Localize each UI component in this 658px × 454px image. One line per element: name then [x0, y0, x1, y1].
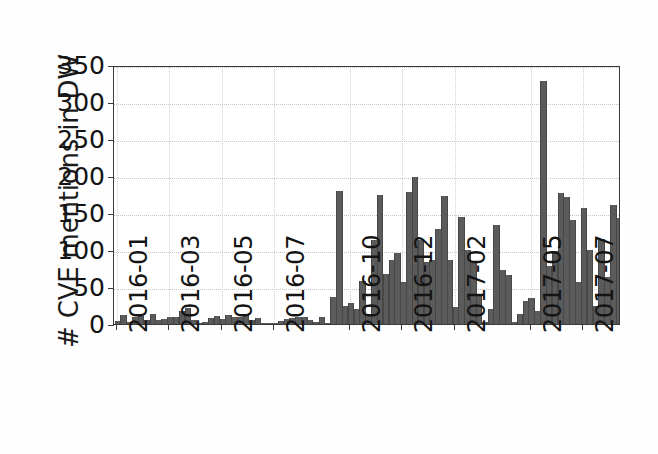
chart-figure: # CVE mentions in DW 0501001502002503003…: [0, 0, 658, 454]
y-tick-label-250: 250: [43, 127, 105, 152]
x-tick-label-2017-07: 2017-07: [591, 235, 619, 333]
x-tick-label-2016-10: 2016-10: [358, 235, 386, 333]
x-tick-label-2016-05: 2016-05: [230, 235, 258, 333]
x-tick-mark-2: [221, 325, 222, 330]
x-tick-label-2016-07: 2016-07: [282, 235, 310, 333]
bar: [336, 191, 343, 324]
x-tick-mark-3: [273, 325, 274, 330]
x-tick-label-2017-05: 2017-05: [539, 235, 567, 333]
x-tick-mark-7: [530, 325, 531, 330]
x-tick-mark-4: [349, 325, 350, 330]
x-tick-label-2017-02: 2017-02: [463, 235, 491, 333]
x-tick-mark-1: [168, 325, 169, 330]
x-tick-label-2016-01: 2016-01: [125, 235, 153, 333]
y-tick-label-350: 350: [43, 53, 105, 78]
x-tick-mark-6: [454, 325, 455, 330]
x-tick-label-2016-12: 2016-12: [410, 235, 438, 333]
x-tick-label-2016-03: 2016-03: [177, 235, 205, 333]
y-tick-label-100: 100: [43, 238, 105, 263]
y-tick-label-0: 0: [43, 312, 105, 337]
bar: [505, 275, 512, 324]
y-tick-label-300: 300: [43, 90, 105, 115]
y-tick-label-200: 200: [43, 164, 105, 189]
x-tick-mark-0: [116, 325, 117, 330]
y-tick-label-150: 150: [43, 201, 105, 226]
y-tick-label-50: 50: [43, 275, 105, 300]
x-tick-mark-5: [401, 325, 402, 330]
x-tick-mark-8: [582, 325, 583, 330]
y-tick-mark-0: [108, 325, 114, 326]
